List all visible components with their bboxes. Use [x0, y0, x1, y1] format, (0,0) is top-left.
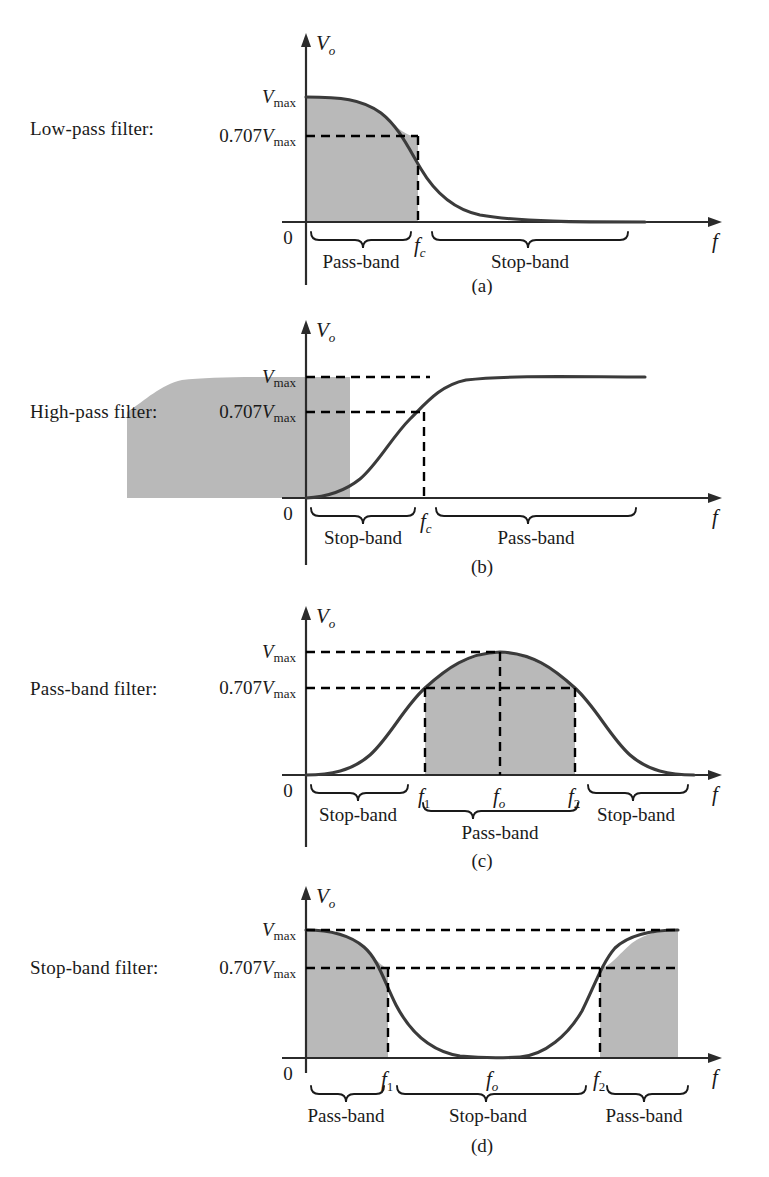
origin-label-d: 0 [283, 1063, 293, 1084]
vmax-label-b: Vmax [262, 366, 296, 390]
vmax-label-d: Vmax [262, 919, 296, 943]
half-power-label-d: 0.707Vmax [219, 957, 296, 981]
band-label-stop-b: Stop-band [324, 527, 403, 548]
y-axis-arrow-c [301, 606, 311, 620]
y-axis-label-c: Vo [316, 604, 336, 631]
band-label-stop-d: Stop-band [449, 1105, 528, 1126]
f2-label-d: f2 [593, 1067, 605, 1094]
half-power-label-c: 0.707Vmax [219, 677, 296, 701]
origin-label-c: 0 [283, 780, 293, 801]
y-axis-arrow-d [301, 886, 311, 900]
panel-c-caption: (c) [471, 850, 492, 872]
x-axis-label-d: f [712, 1065, 721, 1089]
band-label-pass-c: Pass-band [461, 822, 539, 843]
fo-label-d: fo [486, 1067, 499, 1094]
brace-pass-band-left-d [311, 1086, 384, 1102]
brace-pass-band-a [311, 232, 411, 248]
panel-a-row-label: Low-pass filter: [30, 118, 154, 140]
panel-d-caption: (d) [471, 1135, 493, 1157]
band-label-pass-left-d: Pass-band [307, 1105, 385, 1126]
pass-band-shading-b [127, 377, 350, 498]
cutoff-fc-label-a: fc [414, 233, 426, 260]
brace-pass-band-right-d [607, 1086, 688, 1102]
y-axis-arrow-b [301, 320, 311, 334]
x-axis-arrow-b [708, 493, 722, 503]
band-label-stop-right-c: Stop-band [597, 804, 676, 825]
band-label-stop-left-c: Stop-band [319, 804, 398, 825]
panel-b-row-label: High-pass filter: [30, 401, 157, 423]
panel-c-row-label: Pass-band filter: [30, 678, 157, 700]
vmax-label-a: Vmax [262, 86, 296, 110]
panel-pass-band: Pass-band filter: Vmax 0.707Vmax 0 f Vo … [0, 585, 769, 873]
y-axis-label-b: Vo [316, 318, 336, 345]
origin-label-a: 0 [283, 227, 293, 248]
panel-b-chart: Vmax 0.707Vmax 0 f Vo fc Stop-band Pass-… [0, 295, 769, 585]
band-label-pass-b: Pass-band [497, 527, 575, 548]
x-axis-label-b: f [712, 505, 721, 529]
origin-label-b: 0 [283, 503, 293, 524]
vmax-label-c: Vmax [262, 641, 296, 665]
f2-label-c: f2 [568, 784, 580, 811]
x-axis-arrow-d [708, 1053, 722, 1063]
panel-a-chart: Vmax 0.707Vmax 0 f Vo fc Pass-band Stop-… [0, 0, 769, 295]
x-axis-label-a: f [712, 229, 721, 253]
panel-d-row-label: Stop-band filter: [30, 957, 158, 979]
pass-band-shading-a [306, 97, 418, 222]
brace-stop-band-left-c [311, 785, 408, 801]
pass-band-shading-right-d [600, 930, 678, 1058]
response-curve-b [306, 377, 645, 498]
brace-stop-band-a [432, 232, 628, 248]
panel-high-pass: High-pass filter: Vmax 0.707Vmax 0 f Vo … [0, 295, 769, 585]
y-axis-label-d: Vo [316, 884, 336, 911]
band-label-pass-a: Pass-band [322, 251, 400, 272]
brace-pass-band-b [436, 508, 636, 524]
panel-stop-band: Stop-band filter: Vmax 0.707Vmax 0 f Vo … [0, 873, 769, 1177]
panel-b-caption: (b) [471, 556, 493, 578]
y-axis-label-a: Vo [316, 31, 336, 58]
panel-c-chart: Vmax 0.707Vmax 0 f Vo f1 fo f2 Stop-band… [0, 585, 769, 873]
band-label-stop-a: Stop-band [491, 251, 570, 272]
x-axis-label-c: f [712, 782, 721, 806]
cutoff-fc-label-b: fc [420, 509, 432, 536]
band-label-pass-right-d: Pass-band [605, 1105, 683, 1126]
x-axis-arrow-c [708, 770, 722, 780]
x-axis-arrow-a [708, 217, 722, 227]
brace-stop-band-right-c [588, 785, 688, 801]
panel-d-chart: Vmax 0.707Vmax 0 f Vo f1 fo f2 Pass-band… [0, 873, 769, 1177]
panel-a-caption: (a) [471, 275, 492, 295]
fo-label-c: fo [493, 784, 506, 811]
pass-band-shading-left-d [306, 930, 388, 1058]
brace-stop-band-b [311, 508, 415, 524]
y-axis-arrow-a [301, 33, 311, 47]
half-power-label-a: 0.707Vmax [219, 125, 296, 149]
panel-low-pass: Low-pass filter: Vmax 0.707Vmax 0 f Vo f… [0, 0, 769, 295]
